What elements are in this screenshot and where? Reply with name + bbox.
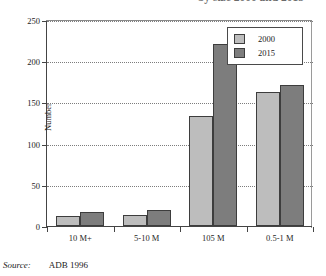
x-axis-tick — [47, 227, 48, 232]
chart-legend: 2000 2015 — [227, 27, 303, 65]
y-axis-tick — [42, 62, 47, 63]
source-label: Source: — [3, 260, 31, 270]
y-axis-tick — [42, 103, 47, 104]
bar-group — [56, 20, 104, 226]
bar-2000-5-10-m — [123, 215, 147, 226]
bar-2015-105-m — [213, 44, 237, 226]
bar-2000-0-5-1-m — [256, 92, 280, 226]
bar-chart: Number 050100150200250 10 M+5-10 M105 M0… — [0, 0, 326, 276]
x-axis-tick-label: 105 M — [202, 233, 224, 243]
y-axis-tick-label: 50 — [32, 181, 41, 191]
y-axis-tick-label: 100 — [27, 140, 40, 150]
bar-2000-105-m — [189, 116, 213, 226]
bar-group — [123, 20, 171, 226]
y-axis-tick — [42, 186, 47, 187]
legend-label-2015: 2015 — [258, 48, 275, 58]
bar-2015-10-m- — [80, 212, 104, 226]
y-axis-title: Number — [43, 103, 53, 131]
x-axis-tick — [180, 227, 181, 232]
bar-2015-5-10-m — [147, 210, 171, 226]
legend-item: 2000 — [234, 32, 297, 46]
y-axis-tick — [42, 21, 47, 22]
x-axis-tick — [247, 227, 248, 232]
x-axis-tick-label: 5-10 M — [134, 233, 159, 243]
legend-label-2000: 2000 — [258, 34, 275, 44]
x-axis-tick-label: 0.5-1 M — [266, 233, 293, 243]
y-axis-tick-label: 150 — [27, 98, 40, 108]
legend-item: 2015 — [234, 46, 297, 60]
x-axis-tick-label: 10 M+ — [69, 233, 92, 243]
x-axis-tick — [114, 227, 115, 232]
x-axis-tick — [313, 227, 314, 232]
bar-2015-0-5-1-m — [280, 85, 304, 226]
legend-swatch-2015 — [234, 48, 245, 58]
y-axis-tick-label: 0 — [36, 222, 40, 232]
y-axis-tick-label: 250 — [27, 16, 40, 26]
legend-swatch-2000 — [234, 34, 245, 44]
source-value: ADB 1996 — [49, 260, 88, 270]
bar-2000-10-m- — [56, 216, 80, 226]
y-axis-tick — [42, 145, 47, 146]
source-line: Source:ADB 1996 — [3, 260, 88, 270]
y-axis-tick-label: 200 — [27, 57, 40, 67]
